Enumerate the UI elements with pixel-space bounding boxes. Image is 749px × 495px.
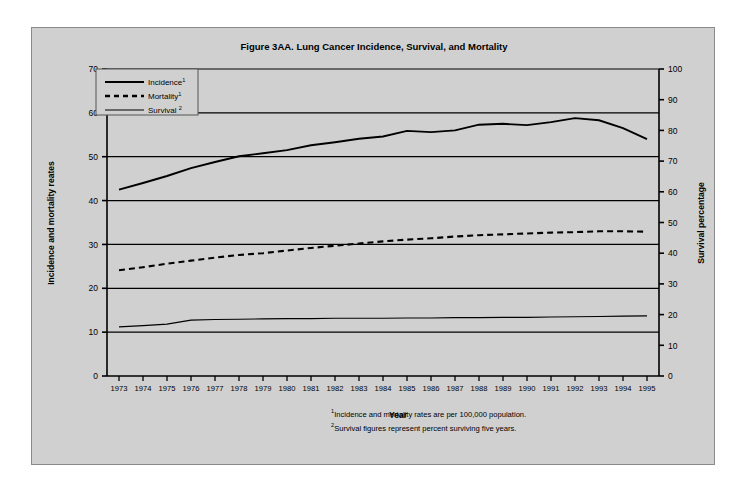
y-axis-right-tick-label: 60: [668, 187, 678, 197]
footnote-2-text: Survival figures represent percent survi…: [334, 424, 516, 433]
x-axis-tick-label: 1992: [567, 384, 584, 393]
y-axis-right-tick-label: 10: [668, 341, 678, 351]
y-axis-left-tick-label: 50: [89, 152, 99, 162]
x-axis-tick-label: 1982: [327, 384, 344, 393]
right-axis-ticks: 0102030405060708090100: [659, 64, 682, 381]
x-axis-tick-label: 1975: [159, 384, 176, 393]
y-axis-right-tick-label: 50: [668, 218, 678, 228]
footnotes: 1Incidence and mortality rates are per 1…: [331, 408, 526, 433]
x-axis-tick-label: 1990: [519, 384, 536, 393]
x-axis-tick-label: 1986: [423, 384, 440, 393]
legend-label-survival: Survival 2: [148, 105, 182, 116]
legend-label-incidence: Incidence1: [148, 77, 185, 88]
y-axis-right-tick-label: 20: [668, 310, 678, 320]
x-axis-tick-label: 1984: [375, 384, 392, 393]
legend: Incidence1Mortality1Survival 2: [96, 69, 198, 115]
x-axis-tick-label: 1977: [207, 384, 224, 393]
y-axis-left-tick-label: 30: [89, 240, 99, 250]
x-axis-tick-label: 1976: [183, 384, 200, 393]
x-axis-tick-label: 1979: [255, 384, 272, 393]
y-axis-right-tick-label: 30: [668, 279, 678, 289]
x-axis-tick-label: 1988: [471, 384, 488, 393]
y-axis-left-tick-label: 10: [89, 327, 99, 337]
x-axis-tick-label: 1980: [279, 384, 296, 393]
y-axis-left-tick-label: 40: [89, 196, 99, 206]
y-axis-left-title: Incidence and mortality reates: [46, 161, 56, 285]
y-axis-right-tick-label: 70: [668, 156, 678, 166]
y-axis-left-tick-label: 0: [93, 371, 98, 381]
chart-canvas: Figure 3AA. Lung Cancer Incidence, Survi…: [32, 28, 716, 466]
x-axis-tick-label: 1985: [399, 384, 416, 393]
y-axis-right-title: Survival percentage: [696, 182, 706, 264]
y-axis-right-tick-label: 100: [668, 64, 682, 74]
x-axis-tick-label: 1983: [351, 384, 368, 393]
y-axis-right-tick-label: 40: [668, 248, 678, 258]
x-axis-tick-label: 1973: [111, 384, 128, 393]
x-axis-tick-label: 1981: [303, 384, 320, 393]
footnote-2: 2Survival figures represent percent surv…: [331, 422, 516, 433]
figure-panel: Figure 3AA. Lung Cancer Incidence, Survi…: [31, 27, 715, 465]
x-axis-tick-label: 1974: [135, 384, 152, 393]
x-axis-ticks: 1973197419751976197719781979198019811982…: [111, 376, 656, 393]
page-title: Figure 3AA. Lung Cancer Incidence, Survi…: [240, 41, 508, 52]
y-axis-right-tick-label: 90: [668, 95, 678, 105]
y-axis-right-tick-label: 0: [668, 371, 673, 381]
legend-label-mortality: Mortality1: [148, 91, 181, 102]
x-axis-tick-label: 1989: [495, 384, 512, 393]
x-axis-tick-label: 1987: [447, 384, 464, 393]
x-axis-tick-label: 1994: [615, 384, 632, 393]
y-axis-right-tick-label: 80: [668, 126, 678, 136]
x-axis-tick-label: 1978: [231, 384, 248, 393]
y-axis-left-tick-label: 20: [89, 283, 99, 293]
footnote-1-text: Incidence and mortality rates are per 10…: [334, 410, 526, 419]
x-axis-tick-label: 1993: [591, 384, 608, 393]
x-axis-tick-label: 1991: [543, 384, 560, 393]
x-axis-tick-label: 1995: [639, 384, 656, 393]
footnote-1: 1Incidence and mortality rates are per 1…: [331, 408, 526, 419]
